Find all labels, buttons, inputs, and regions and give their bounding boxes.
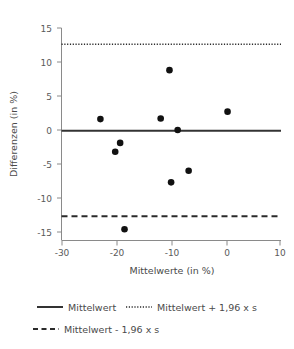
axis-group <box>62 28 282 241</box>
bland-altman-chart: 15 10 5 0 -5 -10 -15 -30 -20 -10 0 10 Mi… <box>0 0 294 349</box>
y-tick-label: -15 <box>37 228 52 238</box>
x-tick-label: 0 <box>224 248 230 258</box>
chart-legend: Mittelwert Mittelwert + 1,96 x s Mittelw… <box>0 296 294 340</box>
legend-item-mittelwert: Mittelwert <box>37 302 116 313</box>
data-point <box>117 140 124 147</box>
y-tick-label: -5 <box>43 160 52 170</box>
legend-label: Mittelwert + 1,96 x s <box>157 302 257 313</box>
data-point <box>121 226 128 233</box>
data-point <box>157 115 164 122</box>
data-point <box>224 108 231 115</box>
legend-swatch-dotted <box>126 303 152 311</box>
y-axis-title: Differenzen (in %) <box>8 91 19 177</box>
legend-label: Mittelwert <box>68 302 116 313</box>
y-tick-label: 15 <box>41 24 52 34</box>
x-tick-label: -30 <box>55 248 70 258</box>
legend-item-lower-loa: Mittelwert - 1,96 x s <box>33 324 159 335</box>
data-point-group <box>97 67 231 233</box>
legend-item-upper-loa: Mittelwert + 1,96 x s <box>126 302 257 313</box>
data-point <box>174 127 181 134</box>
y-tick-label: 5 <box>46 92 52 102</box>
x-tick-label: -10 <box>165 248 180 258</box>
x-axis-title: Mittelwerte (in %) <box>130 265 215 276</box>
data-point <box>166 67 173 74</box>
y-tick-label: 0 <box>46 126 52 136</box>
y-tick-group <box>57 28 62 232</box>
x-tick-label: 10 <box>274 248 286 258</box>
x-tick-labels: -30 -20 -10 0 10 <box>55 248 286 258</box>
x-tick-label: -20 <box>110 248 125 258</box>
data-point <box>97 116 104 123</box>
legend-label: Mittelwert - 1,96 x s <box>64 324 159 335</box>
legend-row-2: Mittelwert - 1,96 x s <box>0 318 294 340</box>
legend-swatch-solid <box>37 303 63 311</box>
legend-swatch-dashed <box>33 325 59 333</box>
data-point <box>168 179 175 186</box>
x-tick-group <box>62 241 280 246</box>
y-tick-label: 10 <box>41 58 53 68</box>
y-tick-labels: 15 10 5 0 -5 -10 -15 <box>37 24 52 238</box>
y-tick-label: -10 <box>37 194 52 204</box>
data-point <box>185 168 192 175</box>
data-point <box>112 148 119 155</box>
legend-row-1: Mittelwert Mittelwert + 1,96 x s <box>0 296 294 318</box>
